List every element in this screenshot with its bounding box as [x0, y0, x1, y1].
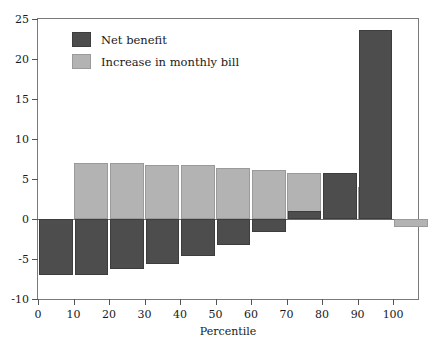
legend-swatch-icon-increase-monthly-bill: [72, 54, 91, 69]
x-axis-tick: [74, 299, 75, 305]
x-axis-tick: [358, 299, 359, 305]
x-axis-tick: [251, 299, 252, 305]
bar-net-benefit-p20: [75, 219, 109, 275]
y-axis-tick: [32, 99, 38, 100]
legend-swatch-icon-net-benefit: [72, 32, 91, 47]
x-axis-tick-label: 90: [351, 308, 365, 321]
x-axis-tick-label: 50: [209, 308, 223, 321]
x-axis-tick: [109, 299, 110, 305]
y-axis-tick-label: 15: [15, 93, 29, 106]
bar-net-benefit-p70: [252, 219, 286, 232]
x-axis-tick-label: 60: [244, 308, 258, 321]
x-axis-tick: [216, 299, 217, 305]
legend-label-increase-monthly-bill: Increase in monthly bill: [101, 55, 239, 69]
y-axis-tick-label: 20: [15, 53, 29, 66]
x-axis-tick: [322, 299, 323, 305]
bar-net-benefit-p30: [110, 219, 144, 269]
y-axis-tick-label: 25: [15, 13, 29, 26]
x-axis-tick-label: 40: [173, 308, 187, 321]
bar-net-benefit-p100: [359, 30, 393, 219]
x-axis-title: Percentile: [38, 325, 418, 338]
legend-label-net-benefit: Net benefit: [101, 33, 167, 47]
y-axis-tick: [32, 259, 38, 260]
x-axis-tick: [145, 299, 146, 305]
bar-increase-monthly-bill-p60: [252, 170, 286, 219]
bar-increase-monthly-bill-p30: [145, 165, 179, 219]
x-axis-tick: [180, 299, 181, 305]
y-axis-tick: [32, 179, 38, 180]
y-axis-tick-label: -5: [18, 253, 29, 266]
bar-net-benefit-p80: [288, 211, 322, 219]
x-axis-tick-label: 70: [280, 308, 294, 321]
y-axis-tick: [32, 219, 38, 220]
x-axis-tick-label: 100: [383, 308, 404, 321]
bar-increase-monthly-bill-p20: [110, 163, 144, 219]
y-axis-tick-label: 5: [22, 173, 29, 186]
bar-increase-monthly-bill-p10: [74, 163, 108, 219]
y-axis-tick-label: 10: [15, 133, 29, 146]
x-axis-tick-label: 30: [138, 308, 152, 321]
legend-item-increase-monthly-bill: Increase in monthly bill: [72, 52, 239, 71]
y-axis-tick-label: -10: [11, 293, 29, 306]
chart-container: -10-505101520250102030405060708090100 Pe…: [0, 0, 434, 339]
bar-net-benefit-p90: [323, 173, 357, 219]
bar-net-benefit-p60: [217, 219, 251, 245]
chart-legend: Net benefit Increase in monthly bill: [72, 30, 239, 74]
y-axis-tick: [32, 59, 38, 60]
y-axis-tick-label: 0: [22, 213, 29, 226]
y-axis-tick: [32, 139, 38, 140]
x-axis-tick-label: 10: [67, 308, 81, 321]
x-axis-tick-label: 0: [35, 308, 42, 321]
bar-increase-monthly-bill-p100: [394, 219, 428, 227]
bar-net-benefit-p50: [181, 219, 215, 256]
x-axis-tick: [393, 299, 394, 305]
x-axis-tick: [287, 299, 288, 305]
bar-net-benefit-p10: [39, 219, 73, 275]
x-axis-tick-label: 20: [102, 308, 116, 321]
bar-net-benefit-p40: [146, 219, 180, 264]
bar-increase-monthly-bill-p40: [181, 165, 215, 219]
x-axis-tick-label: 80: [315, 308, 329, 321]
y-axis-tick: [32, 19, 38, 20]
x-axis-tick: [38, 299, 39, 305]
legend-item-net-benefit: Net benefit: [72, 30, 239, 49]
bar-increase-monthly-bill-p50: [216, 168, 250, 219]
